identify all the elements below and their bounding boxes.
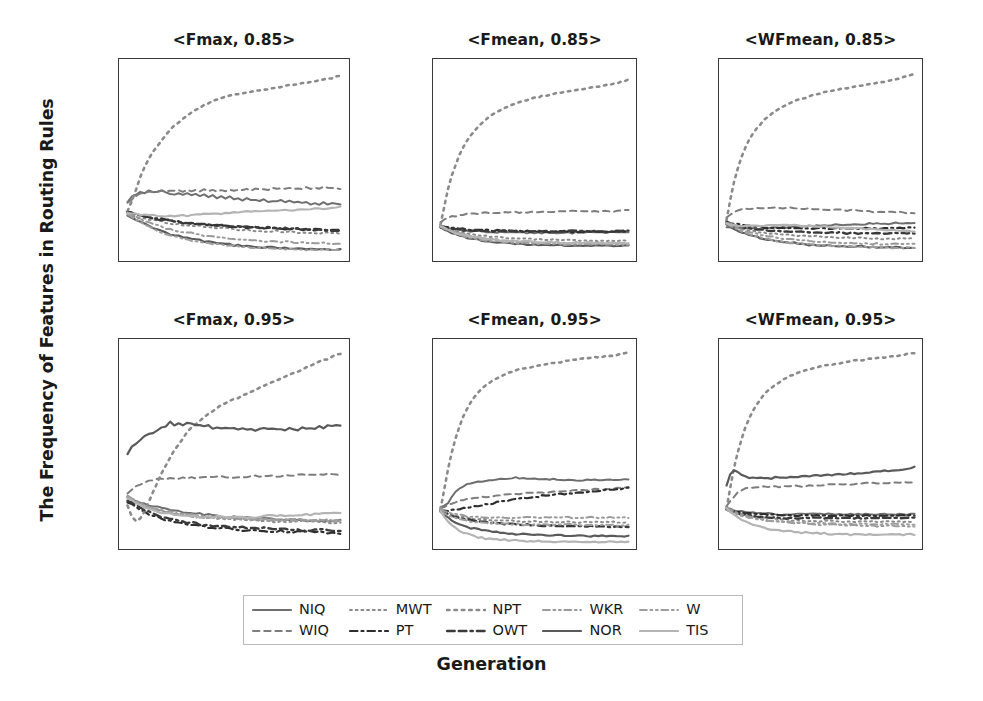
subplot-5: <Fmean, 0.95>0.10.20.302040 (432, 338, 637, 550)
x-tick-mark (440, 549, 442, 550)
legend-label: NOR (582, 623, 621, 638)
x-tick-mark (299, 549, 301, 550)
y-axis-title: The Frequency of Features in Routing Rul… (37, 75, 57, 545)
series-line-TIS (128, 207, 341, 217)
series-line-PT (441, 487, 629, 511)
x-tick-mark (127, 549, 129, 550)
legend-column: WTIS (639, 600, 736, 640)
y-tick-mark (118, 67, 119, 69)
y-tick-mark (718, 436, 719, 438)
x-tick-mark (213, 549, 215, 550)
legend-swatch-WIQ (252, 624, 292, 638)
subplot-title: <Fmean, 0.95> (432, 311, 637, 329)
x-tick-mark (516, 549, 518, 550)
legend-column: WKRNOR (542, 600, 639, 640)
legend-item[interactable]: W (639, 600, 736, 619)
series-line-NPT (727, 74, 915, 220)
x-tick-mark (592, 549, 594, 550)
subplot-title: <WFmean, 0.95> (718, 311, 923, 329)
x-tick-label: 40 (583, 261, 603, 262)
series-line-NOR (128, 422, 341, 454)
x-tick-label: 20 (793, 261, 813, 262)
series-line-WIQ (727, 207, 915, 217)
x-tick-mark (802, 549, 804, 550)
x-tick-mark (802, 261, 804, 262)
series-line-NPT (441, 352, 629, 509)
x-tick-label: 0 (436, 549, 446, 550)
y-tick-mark (118, 397, 119, 399)
x-tick-label: 40 (869, 261, 889, 262)
x-tick-label: 40 (290, 549, 310, 550)
x-tick-mark (878, 549, 880, 550)
legend-item[interactable]: OWT (446, 621, 543, 640)
legend-swatch-NPT (446, 603, 486, 617)
subplot-1: <Fmax, 0.85>0.10.20.302040 (118, 58, 350, 262)
legend-label: NIQ (292, 602, 326, 617)
subplot-title: <Fmax, 0.95> (118, 311, 350, 329)
x-tick-label: 20 (204, 261, 224, 262)
x-tick-label: 20 (507, 549, 527, 550)
y-tick-mark (118, 493, 119, 495)
plot-area: 0.10.20.302040 (118, 58, 350, 262)
x-tick-label: 20 (793, 549, 813, 550)
legend-label: TIS (679, 623, 708, 638)
series-line-NIQ (128, 190, 341, 204)
y-tick-mark (118, 139, 119, 141)
x-tick-label: 0 (722, 261, 732, 262)
legend-swatch-OWT (446, 624, 486, 638)
x-tick-mark (516, 261, 518, 262)
legend-item[interactable]: MWT (349, 600, 446, 619)
legend-column: NPTOWT (446, 600, 543, 640)
x-tick-label: 0 (436, 261, 446, 262)
y-tick-mark (432, 225, 433, 227)
x-tick-label: 20 (507, 261, 527, 262)
legend-label: OWT (486, 623, 528, 638)
legend-item[interactable]: PT (349, 621, 446, 640)
plot-area: 0.10.20.302040 (718, 58, 923, 262)
x-tick-label: 0 (123, 549, 133, 550)
subplot-4: <Fmax, 0.95>0.10.202040 (118, 338, 350, 550)
y-tick-mark (718, 221, 719, 223)
subplot-6: <WFmean, 0.95>0.10.20.302040 (718, 338, 923, 550)
plot-area: 0.10.20.302040 (432, 58, 637, 262)
y-tick-mark (118, 210, 119, 212)
legend-label: WKR (582, 602, 623, 617)
legend-item[interactable]: NOR (542, 621, 639, 640)
series-line-WIQ (128, 187, 341, 203)
y-tick-mark (718, 503, 719, 505)
x-tick-mark (299, 261, 301, 262)
legend-swatch-MWT (349, 603, 389, 617)
legend-swatch-WKR (542, 603, 582, 617)
subplot-title: <Fmax, 0.85> (118, 31, 350, 49)
x-tick-label: 40 (290, 261, 310, 262)
legend-swatch-NOR (542, 624, 582, 638)
x-tick-mark (726, 261, 728, 262)
x-tick-mark (127, 261, 129, 262)
legend-swatch-PT (349, 624, 389, 638)
series-line-WIQ (441, 210, 629, 222)
legend-item[interactable]: TIS (639, 621, 736, 640)
x-tick-mark (213, 261, 215, 262)
series-line-WIQ (727, 482, 915, 506)
subplot-2: <Fmean, 0.85>0.10.20.302040 (432, 58, 637, 262)
legend-swatch-NIQ (252, 603, 292, 617)
figure-root: The Frequency of Features in Routing Rul… (0, 0, 983, 701)
legend-item[interactable]: WKR (542, 600, 639, 619)
legend-label: WIQ (292, 623, 329, 638)
legend-item[interactable]: NIQ (252, 600, 349, 619)
y-tick-mark (432, 371, 433, 373)
series-line-WKR (441, 509, 629, 518)
legend-label: W (679, 602, 700, 617)
legend: NIQWIQ MWTPT NPTOWT WKRNOR WTIS (243, 595, 743, 645)
legend-label: NPT (486, 602, 521, 617)
legend-swatch-TIS (639, 624, 679, 638)
y-tick-mark (432, 438, 433, 440)
x-tick-mark (878, 261, 880, 262)
legend-item[interactable]: NPT (446, 600, 543, 619)
legend-item[interactable]: WIQ (252, 621, 349, 640)
x-tick-label: 0 (123, 261, 133, 262)
subplot-title: <WFmean, 0.85> (718, 31, 923, 49)
y-tick-mark (718, 100, 719, 102)
x-tick-label: 20 (204, 549, 224, 550)
y-tick-mark (718, 161, 719, 163)
